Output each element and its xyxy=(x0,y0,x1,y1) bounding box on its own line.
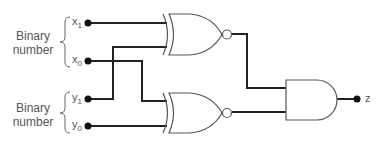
xnor-gate-1 xyxy=(163,14,232,55)
group-label-line: number xyxy=(8,43,58,57)
group-label-x: Binary number xyxy=(8,29,58,57)
logic-diagram: Binary number Binary number x1 x0 y1 y0 … xyxy=(0,0,384,147)
brace-x xyxy=(60,17,70,67)
input-label-x1: x1 xyxy=(72,15,82,30)
inverter-bubble xyxy=(223,109,232,118)
terminal-x0 xyxy=(85,58,92,65)
input-label-x0: x0 xyxy=(72,53,82,68)
inverter-bubble xyxy=(223,30,232,39)
group-label-y: Binary number xyxy=(8,101,58,129)
terminal-x1 xyxy=(85,20,92,27)
input-label-y1: y1 xyxy=(72,91,82,106)
xnor-gate-2 xyxy=(163,93,232,133)
group-label-line: number xyxy=(8,115,58,129)
output-label-z: z xyxy=(365,92,371,104)
input-label-y0: y0 xyxy=(72,118,82,133)
brace-y xyxy=(60,92,70,133)
and-gate xyxy=(286,80,337,120)
terminal-y1 xyxy=(85,96,92,103)
group-label-line: Binary xyxy=(8,29,58,43)
terminal-y0 xyxy=(85,123,92,130)
terminal-z xyxy=(354,96,361,103)
group-label-line: Binary xyxy=(8,101,58,115)
